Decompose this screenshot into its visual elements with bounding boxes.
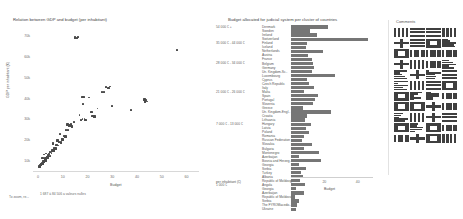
scatter-point[interactable] bbox=[83, 96, 85, 98]
glyph-tile-icon[interactable] bbox=[442, 49, 457, 58]
glyph-tile-icon[interactable] bbox=[442, 123, 457, 132]
glyph-tile-icon[interactable] bbox=[410, 28, 425, 37]
glyph-part bbox=[414, 60, 416, 69]
scatter-point[interactable] bbox=[60, 141, 62, 143]
glyph-tile-icon[interactable] bbox=[442, 102, 457, 111]
glyph-tile-icon[interactable] bbox=[426, 49, 441, 58]
glyph-tile-icon[interactable] bbox=[442, 70, 457, 79]
scatter-point[interactable] bbox=[84, 119, 86, 121]
scatter-point[interactable] bbox=[61, 138, 64, 141]
glyph-part bbox=[414, 104, 421, 109]
glyph-tile-icon[interactable] bbox=[394, 81, 409, 90]
glyph-tile-icon[interactable] bbox=[426, 113, 441, 122]
glyph-tile-icon[interactable] bbox=[394, 113, 409, 122]
glyph-tile-icon[interactable] bbox=[410, 70, 425, 79]
scatter-point[interactable] bbox=[146, 101, 148, 103]
scatter-point[interactable] bbox=[51, 152, 53, 154]
scatter-point[interactable] bbox=[67, 129, 69, 131]
scatter-point[interactable] bbox=[52, 149, 55, 152]
scatter-point[interactable] bbox=[80, 119, 82, 121]
scatter-point[interactable] bbox=[90, 111, 93, 114]
bar-x-tick: 0 bbox=[290, 180, 292, 184]
scatter-point[interactable] bbox=[176, 49, 178, 51]
glyph-tile-icon[interactable] bbox=[426, 60, 441, 69]
glyph-tile-icon[interactable] bbox=[426, 70, 441, 79]
scatter-point[interactable] bbox=[88, 97, 90, 99]
glyph-part bbox=[444, 93, 446, 100]
scatter-point[interactable] bbox=[52, 142, 55, 145]
glyph-tile-icon[interactable] bbox=[410, 134, 425, 143]
glyph-tile-icon[interactable] bbox=[442, 39, 457, 48]
bar-row[interactable]: Ukraine bbox=[214, 207, 384, 211]
glyph-part bbox=[446, 134, 448, 143]
scatter-point[interactable] bbox=[93, 115, 96, 118]
glyph-part bbox=[430, 41, 437, 46]
glyph-tile-icon[interactable] bbox=[442, 60, 457, 69]
glyph-tile-icon[interactable] bbox=[426, 102, 441, 111]
glyph-tile-icon[interactable] bbox=[410, 39, 425, 48]
comments-glyph-grid[interactable] bbox=[394, 28, 460, 143]
glyph-part bbox=[426, 78, 435, 79]
glyph-part bbox=[410, 81, 412, 90]
glyph-tile-icon[interactable] bbox=[426, 134, 441, 143]
glyph-tile-icon[interactable] bbox=[394, 102, 409, 111]
glyph-tile-icon[interactable] bbox=[410, 102, 425, 111]
glyph-part bbox=[442, 67, 454, 68]
glyph-part bbox=[414, 113, 416, 122]
glyph-part bbox=[452, 93, 454, 100]
glyph-tile-icon[interactable] bbox=[394, 60, 409, 69]
glyph-tile-icon[interactable] bbox=[442, 92, 457, 101]
glyph-part bbox=[410, 31, 425, 33]
glyph-tile-icon[interactable] bbox=[410, 81, 425, 90]
scatter-point[interactable] bbox=[82, 103, 84, 105]
glyph-tile-icon[interactable] bbox=[394, 134, 409, 143]
glyph-part bbox=[398, 104, 405, 109]
glyph-tile-icon[interactable] bbox=[394, 49, 409, 58]
glyph-tile-icon[interactable] bbox=[394, 123, 409, 132]
scatter-point[interactable] bbox=[97, 108, 99, 110]
glyph-tile-icon[interactable] bbox=[410, 92, 425, 101]
scatter-plot-area[interactable] bbox=[33, 26, 199, 171]
glyph-part bbox=[406, 28, 408, 37]
glyph-tile-icon[interactable] bbox=[410, 123, 425, 132]
scatter-point[interactable] bbox=[130, 109, 132, 111]
glyph-tile-icon[interactable] bbox=[394, 70, 409, 79]
scatter-zoom-hint: To zoom, re... bbox=[9, 195, 29, 199]
glyph-tile-icon[interactable] bbox=[426, 39, 441, 48]
scatter-point[interactable] bbox=[79, 114, 81, 116]
glyph-tile-icon[interactable] bbox=[442, 28, 457, 37]
scatter-point[interactable] bbox=[56, 139, 59, 142]
scatter-point[interactable] bbox=[45, 153, 47, 155]
glyph-tile-icon[interactable] bbox=[442, 113, 457, 122]
glyph-part bbox=[394, 89, 407, 90]
glyph-tile-icon[interactable] bbox=[410, 60, 425, 69]
glyph-tile-icon[interactable] bbox=[426, 123, 441, 132]
scatter-point[interactable] bbox=[59, 133, 61, 135]
scatter-point[interactable] bbox=[111, 105, 113, 107]
scatter-point[interactable] bbox=[64, 135, 67, 138]
glyph-tile-icon[interactable] bbox=[394, 39, 409, 48]
glyph-tile-icon[interactable] bbox=[442, 134, 457, 143]
scatter-x-tick: 0 bbox=[37, 175, 39, 179]
glyph-part bbox=[394, 42, 409, 44]
glyph-tile-icon[interactable] bbox=[410, 113, 425, 122]
glyph-tile-icon[interactable] bbox=[410, 49, 425, 58]
glyph-part bbox=[394, 63, 409, 65]
scatter-point[interactable] bbox=[43, 154, 45, 156]
scatter-point[interactable] bbox=[57, 145, 59, 147]
scatter-point[interactable] bbox=[73, 121, 75, 123]
scatter-point[interactable] bbox=[49, 155, 51, 157]
glyph-tile-icon[interactable] bbox=[394, 92, 409, 101]
bar-rows-container: 54 000 € +DenmarkSwedenIrelandSwitzerlan… bbox=[214, 25, 384, 177]
glyph-tile-icon[interactable] bbox=[426, 28, 441, 37]
glyph-tile-icon[interactable] bbox=[426, 92, 441, 101]
glyph-tile-icon[interactable] bbox=[426, 81, 441, 90]
glyph-tile-icon[interactable] bbox=[394, 28, 409, 37]
scatter-point[interactable] bbox=[103, 91, 105, 93]
dashboard-root: Relation between GDP and budget (per inh… bbox=[0, 0, 463, 219]
glyph-tile-icon[interactable] bbox=[442, 81, 457, 90]
scatter-point[interactable] bbox=[71, 125, 73, 127]
scatter-point[interactable] bbox=[77, 36, 79, 38]
glyph-part bbox=[428, 61, 430, 68]
scatter-point[interactable] bbox=[38, 165, 40, 167]
